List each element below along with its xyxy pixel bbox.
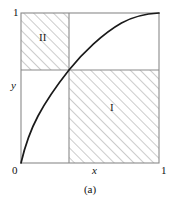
y-axis-max-label: 1	[13, 7, 19, 18]
figure-container: 1 y 0 x 1 I II (a)	[0, 0, 180, 203]
figure-graphic	[0, 0, 180, 203]
x-axis-label: x	[92, 165, 97, 176]
figure-caption: (a)	[0, 183, 180, 195]
region-one-fill	[69, 70, 159, 163]
y-axis-label: y	[11, 80, 16, 91]
x-axis-max-label: 1	[161, 165, 167, 176]
origin-label: 0	[12, 165, 18, 176]
region-one-label: I	[110, 102, 114, 113]
region-two-label: II	[39, 32, 46, 43]
